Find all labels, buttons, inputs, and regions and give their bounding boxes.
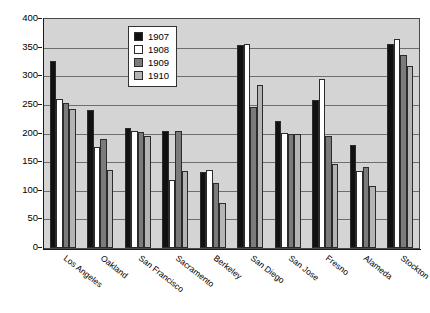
bar-group bbox=[307, 19, 345, 248]
bar bbox=[175, 131, 182, 248]
bar bbox=[213, 183, 220, 248]
bar bbox=[319, 79, 326, 248]
bar bbox=[350, 145, 357, 248]
bar bbox=[69, 109, 76, 248]
bar bbox=[244, 44, 251, 248]
bar bbox=[363, 167, 370, 248]
x-axis-tick-label: Oakland bbox=[99, 253, 130, 280]
bar-group bbox=[44, 19, 82, 248]
y-axis-tick bbox=[38, 75, 42, 76]
y-axis-tick-label: 50 bbox=[0, 213, 38, 223]
x-axis-labels: Los AngelesOaklandSan FranciscoSacrament… bbox=[43, 250, 420, 313]
bar bbox=[100, 139, 107, 248]
y-axis-tick bbox=[38, 247, 42, 248]
bar bbox=[400, 55, 407, 248]
legend-item: 1909 bbox=[134, 56, 169, 69]
bar-group bbox=[232, 19, 270, 248]
legend-swatch-icon bbox=[134, 58, 143, 67]
bar-group bbox=[82, 19, 120, 248]
bar bbox=[281, 133, 288, 248]
legend-swatch-icon bbox=[134, 32, 143, 41]
y-axis-tick bbox=[38, 218, 42, 219]
legend-swatch-icon bbox=[134, 71, 143, 80]
bar-chart: 050100150200250300350400 Los AngelesOakl… bbox=[0, 0, 430, 313]
y-axis-tick bbox=[38, 161, 42, 162]
y-axis-tick-label: 0 bbox=[0, 242, 38, 252]
bar-group bbox=[269, 19, 307, 248]
bar bbox=[275, 121, 282, 248]
bar bbox=[131, 131, 138, 248]
bar bbox=[294, 134, 301, 248]
x-axis-tick-label: Stockton bbox=[399, 253, 430, 281]
y-axis-tick bbox=[38, 18, 42, 19]
legend-item-label: 1908 bbox=[148, 45, 169, 55]
y-axis-tick bbox=[38, 190, 42, 191]
bar bbox=[237, 45, 244, 248]
bar-group bbox=[344, 19, 382, 248]
legend-item: 1907 bbox=[134, 30, 169, 43]
x-axis-tick-label: Alameda bbox=[362, 253, 395, 282]
y-axis-tick-label: 150 bbox=[0, 156, 38, 166]
x-axis-tick-label: San Diego bbox=[249, 253, 286, 285]
legend-item-label: 1907 bbox=[148, 32, 169, 42]
bar bbox=[50, 61, 57, 248]
bar bbox=[369, 186, 376, 248]
bar bbox=[125, 128, 132, 248]
bar bbox=[169, 180, 176, 248]
x-axis-tick-label: San Jose bbox=[287, 253, 321, 283]
bar bbox=[312, 100, 319, 248]
y-axis-tick-label: 400 bbox=[0, 13, 38, 23]
x-axis-tick-label: Fresno bbox=[324, 253, 351, 277]
bar bbox=[63, 103, 70, 248]
x-axis-tick-label: Los Angeles bbox=[62, 253, 105, 289]
legend-item: 1910 bbox=[134, 69, 169, 82]
bar bbox=[219, 203, 226, 248]
legend-item: 1908 bbox=[134, 43, 169, 56]
bar bbox=[87, 110, 94, 248]
y-axis-tick-label: 300 bbox=[0, 70, 38, 80]
bar bbox=[138, 132, 145, 248]
bar bbox=[56, 99, 63, 248]
x-axis-tick-label: Berkeley bbox=[212, 253, 244, 281]
bar bbox=[356, 171, 363, 248]
bar bbox=[200, 172, 207, 248]
y-axis-tick-label: 100 bbox=[0, 185, 38, 195]
y-axis-tick-label: 350 bbox=[0, 42, 38, 52]
y-axis-labels: 050100150200250300350400 bbox=[0, 18, 38, 249]
bar bbox=[325, 136, 332, 248]
bar bbox=[332, 164, 339, 248]
bar bbox=[94, 147, 101, 248]
plot-area bbox=[43, 18, 420, 249]
bar-group bbox=[382, 19, 420, 248]
chart-legend: 1907190819091910 bbox=[128, 26, 177, 87]
bar bbox=[182, 171, 189, 248]
bar bbox=[387, 44, 394, 248]
bar bbox=[107, 170, 114, 248]
bar bbox=[250, 107, 257, 248]
y-axis-tick bbox=[38, 133, 42, 134]
bar bbox=[144, 136, 151, 248]
y-axis-tick-label: 250 bbox=[0, 99, 38, 109]
y-axis-line bbox=[43, 18, 44, 250]
bar bbox=[162, 131, 169, 248]
legend-item-label: 1910 bbox=[148, 71, 169, 81]
bar bbox=[206, 170, 213, 248]
bar bbox=[394, 39, 401, 248]
y-axis-tick-label: 200 bbox=[0, 128, 38, 138]
bar bbox=[257, 85, 264, 248]
bar bbox=[288, 134, 295, 249]
y-axis-tick bbox=[38, 104, 42, 105]
legend-swatch-icon bbox=[134, 45, 143, 54]
legend-item-label: 1909 bbox=[148, 58, 169, 68]
y-axis-tick bbox=[38, 47, 42, 48]
bar bbox=[407, 66, 414, 248]
bar-group bbox=[194, 19, 232, 248]
